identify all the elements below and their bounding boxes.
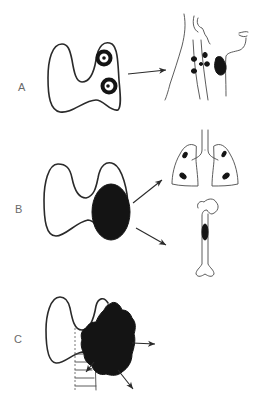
panel-a [48, 14, 248, 112]
panel-c [46, 297, 155, 390]
left-lung [172, 144, 198, 186]
lung-metastasis [221, 151, 227, 158]
neck-muscle-line-2 [201, 40, 208, 100]
bone-metastasis [202, 224, 208, 240]
lymph-node [199, 63, 202, 66]
lymph-node-cluster [215, 57, 226, 75]
invasive-tumor-mass [81, 302, 135, 375]
neck-figure [165, 14, 248, 100]
lymph-node [191, 57, 196, 62]
lung-metastasis [182, 152, 188, 159]
right-lung [212, 144, 238, 186]
lymph-node [205, 62, 210, 66]
lymph-node [191, 69, 196, 73]
arrow-to-neck [128, 70, 166, 74]
arrow-invasion-lateral [132, 343, 155, 344]
nodule-ring-2 [103, 80, 116, 93]
arrow-to-lungs [133, 180, 162, 203]
arrow-to-bone [136, 228, 166, 245]
nodule-ring-1 [98, 52, 111, 65]
lung-metastasis [222, 172, 230, 180]
arrow-invasion-inferior [118, 370, 133, 389]
neck-back-line [165, 14, 185, 100]
lymph-node [203, 52, 207, 57]
ear-outline [193, 16, 210, 44]
lungs-figure [172, 130, 238, 186]
solid-tumor-mass [92, 184, 130, 240]
diagram-canvas [0, 0, 266, 404]
femur-figure [196, 199, 218, 276]
panel-b [44, 130, 238, 276]
thyroid-metastasis-figure: A B C [0, 0, 266, 404]
face-profile [226, 32, 248, 96]
lung-metastasis [179, 172, 187, 180]
